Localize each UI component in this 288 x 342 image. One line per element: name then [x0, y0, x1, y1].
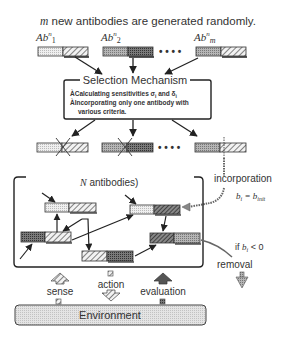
diagram-canvas: m new antibodies are generated randomly.… — [0, 0, 288, 342]
pool-antibody-b — [130, 205, 181, 215]
environment-box: Environment — [15, 305, 206, 325]
incorporation-label: incorporation — [214, 173, 272, 184]
pool-antibody-d — [150, 233, 201, 244]
removal-condition: if bi < 0 — [235, 242, 263, 253]
action-label: action — [98, 279, 125, 290]
incorporation-arrow — [188, 188, 224, 207]
arrow-abm-to-selection — [165, 58, 198, 74]
antibody-abm — [196, 47, 247, 57]
arrow-selection-out-3 — [172, 120, 197, 136]
pool-antibody-a — [45, 203, 97, 213]
ellipsis-top: • • • • — [159, 46, 182, 57]
selection-item-1: ÀCalculating sensitivities σi and δi — [70, 89, 178, 99]
removal-label: removal — [217, 259, 253, 270]
removal-arrow-icon — [236, 272, 248, 288]
selected-antibody-m — [195, 137, 246, 158]
incorporation-arrowhead-icon — [182, 203, 190, 211]
evaluation-label: evaluation — [140, 286, 186, 297]
ellipsis-middle: • • • • — [158, 142, 181, 153]
new-antibody-labels: Abn1 Abn2 Abnm — [35, 30, 216, 45]
environment-label: Environment — [79, 309, 141, 321]
selected-antibody-2 — [102, 138, 153, 156]
arrow-ab1-to-selection — [75, 57, 102, 74]
selection-item-3: various criteria. — [78, 108, 127, 115]
selected-antibody-1 — [37, 138, 88, 156]
selection-title: Selection Mechanism — [83, 74, 188, 86]
ab2-label: Abn2 — [100, 30, 121, 45]
title-text: m new antibodies are generated randomly. — [40, 15, 256, 27]
incorporation-formula: bi = binit — [236, 191, 266, 202]
removal-connector — [201, 240, 232, 257]
antibody-ab2 — [103, 47, 154, 57]
sense-label: sense — [47, 286, 74, 297]
pool-label: N antibodies) — [79, 177, 138, 188]
abm-label: Abnm — [193, 30, 216, 45]
selection-mechanism-box: Selection Mechanism ÀCalculating sensiti… — [64, 74, 211, 119]
pool-antibody-e — [82, 251, 134, 262]
selection-item-2: ÀIncorporating only one antibody with — [70, 98, 189, 107]
pool-antibody-c — [21, 232, 72, 243]
antibody-ab1 — [38, 47, 89, 57]
arrow-selection-out-1 — [72, 120, 95, 136]
ab1-label: Abn1 — [35, 30, 56, 45]
